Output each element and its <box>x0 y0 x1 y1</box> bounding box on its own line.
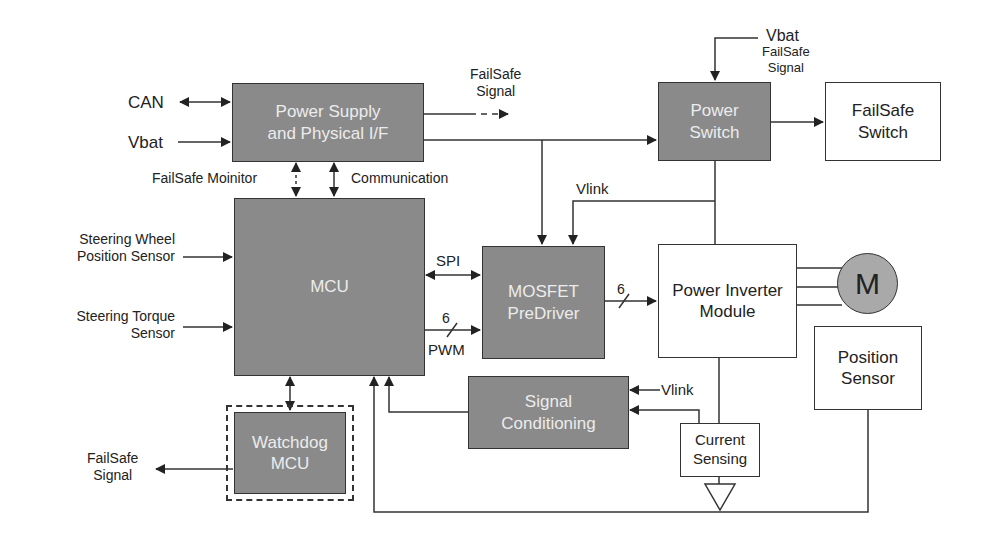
mosfet-label: MOSFET PreDriver <box>508 281 580 324</box>
failsafe-signal-top-label: FailSafe Signal <box>470 66 521 100</box>
signal-conditioning-label: Signal Conditioning <box>501 391 596 434</box>
steering-wheel-label: Steering Wheel Position Sensor <box>40 231 175 265</box>
communication-label: Communication <box>351 170 448 187</box>
failsafe-monitor-label: FailSafe Moinitor <box>152 170 257 187</box>
power-switch-label: Power Switch <box>689 100 739 143</box>
mcu-block[interactable]: MCU <box>234 198 425 376</box>
mcu-label: MCU <box>310 276 349 297</box>
failsafe-signal-right-label: FailSafe Signal <box>762 44 810 75</box>
position-sensor-block[interactable]: Position Sensor <box>814 326 922 410</box>
vbat-left-label: Vbat <box>128 133 163 153</box>
watchdog-label: Watchdog MCU <box>252 432 328 475</box>
failsafe-switch-label: FailSafe Switch <box>852 100 914 143</box>
inverter-count-label: 6 <box>617 281 625 298</box>
watchdog-mcu-block[interactable]: Watchdog MCU <box>234 412 346 494</box>
vlink-bottom-label: Vlink <box>661 381 694 399</box>
motor-label: M <box>855 267 880 301</box>
position-sensor-label: Position Sensor <box>838 347 898 390</box>
pwm-label: PWM <box>428 341 465 359</box>
steering-torque-label: Steering Torque Sensor <box>40 308 175 342</box>
power-inverter-block[interactable]: Power Inverter Module <box>658 244 797 358</box>
can-label: CAN <box>128 93 164 113</box>
vlink-top-label: Vlink <box>576 180 609 198</box>
failsafe-signal-bottom-label: FailSafe Signal <box>87 450 138 484</box>
signal-conditioning-block[interactable]: Signal Conditioning <box>468 376 629 449</box>
pwm-count-label: 6 <box>442 310 450 327</box>
spi-label: SPI <box>436 252 460 270</box>
current-sensing-block[interactable]: Current Sensing <box>680 423 760 477</box>
power-supply-block[interactable]: Power Supply and Physical I/F <box>232 83 424 162</box>
vbat-top-label: Vbat <box>766 26 799 45</box>
current-sensing-label: Current Sensing <box>693 431 747 469</box>
power-supply-label: Power Supply and Physical I/F <box>268 101 389 144</box>
power-switch-block[interactable]: Power Switch <box>658 82 771 161</box>
failsafe-switch-block[interactable]: FailSafe Switch <box>825 82 941 161</box>
mosfet-predriver-block[interactable]: MOSFET PreDriver <box>482 246 605 359</box>
power-inverter-label: Power Inverter Module <box>672 280 783 323</box>
motor-icon[interactable]: M <box>837 253 898 314</box>
